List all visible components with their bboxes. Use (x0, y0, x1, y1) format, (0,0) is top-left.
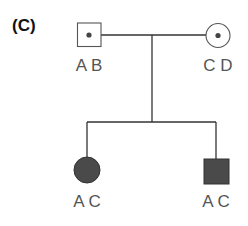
panel-label: (C) (12, 16, 36, 35)
mother-carrier-female-symbol (206, 24, 230, 48)
father-carrier-male-symbol (78, 23, 102, 47)
mother-genotype: C D (203, 56, 232, 75)
daughter-genotype: A C (73, 192, 100, 211)
daughter-affected-female-symbol (74, 157, 100, 183)
father-genotype: A B (76, 56, 102, 75)
pedigree-diagram: (C) A B C D A C A C (0, 0, 248, 226)
son-genotype: A C (202, 192, 229, 211)
son-affected-male-symbol (204, 159, 229, 184)
